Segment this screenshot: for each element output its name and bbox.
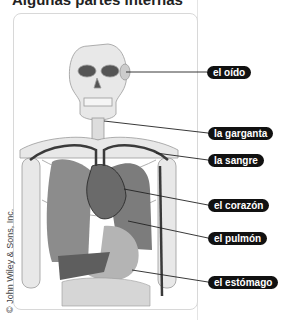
label-throat: la garganta: [208, 127, 273, 140]
label-blood: la sangre: [208, 154, 264, 167]
label-stomach: el estómago: [208, 276, 278, 289]
label-heart: el corazón: [208, 199, 269, 212]
organs: [47, 159, 152, 306]
left-lung: [47, 159, 92, 262]
intestines: [62, 278, 150, 306]
label-ear: el oído: [207, 66, 251, 79]
label-lung: el pulmón: [208, 232, 267, 245]
copyright-credit: © John Wiley & Sons, Inc.: [5, 213, 15, 313]
